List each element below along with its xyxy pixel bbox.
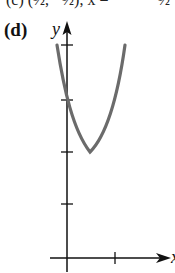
graph xyxy=(0,0,175,273)
